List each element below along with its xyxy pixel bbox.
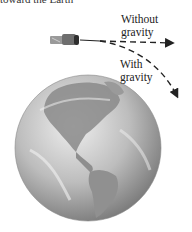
label-with-gravity: With gravity <box>120 58 153 84</box>
earth-globe <box>15 75 161 221</box>
label-line: gravity <box>121 26 158 39</box>
label-line: With <box>120 58 153 71</box>
label-line: Without <box>121 13 158 26</box>
label-without-gravity: Without gravity <box>121 13 158 39</box>
satellite-icon <box>50 34 79 45</box>
gravity-diagram <box>0 0 192 232</box>
label-line: gravity <box>120 71 153 84</box>
